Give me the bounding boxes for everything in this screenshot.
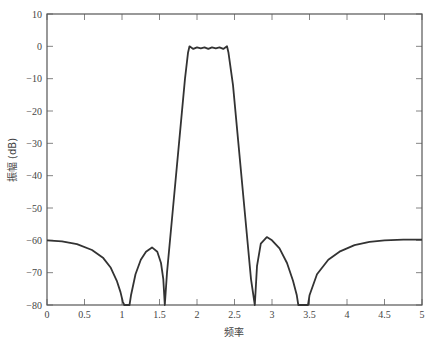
x-tick-label: 0.5 (78, 309, 91, 320)
y-tick-label: −60 (26, 235, 42, 246)
x-tick-label: 2 (195, 309, 200, 320)
x-tick-label: 2.5 (228, 309, 241, 320)
x-tick-label: 0 (45, 309, 50, 320)
tick-labels: 00.511.522.533.544.55100−10−20−30−40−50−… (26, 9, 424, 321)
y-tick-label: −20 (26, 106, 42, 117)
x-tick-label: 1 (120, 309, 125, 320)
magnitude-curve (47, 46, 422, 305)
y-tick-label: −30 (26, 138, 42, 149)
x-tick-label: 3.5 (303, 309, 316, 320)
y-tick-label: −70 (26, 267, 42, 278)
x-tick-label: 3 (270, 309, 275, 320)
x-tick-label: 1.5 (153, 309, 166, 320)
y-tick-label: −80 (26, 300, 42, 311)
y-axis-label: 振幅 (dB) (6, 138, 18, 182)
y-tick-label: −40 (26, 170, 42, 181)
y-tick-label: −10 (26, 73, 42, 84)
frequency-response-chart: 00.511.522.533.544.55100−10−20−30−40−50−… (0, 0, 431, 345)
x-tick-label: 5 (420, 309, 425, 320)
y-tick-label: −50 (26, 203, 42, 214)
plot-frame (47, 14, 422, 305)
x-axis-label: 频率 (224, 326, 244, 338)
x-tick-label: 4.5 (378, 309, 391, 320)
y-tick-label: 0 (37, 41, 42, 52)
y-tick-label: 10 (32, 9, 42, 20)
x-tick-label: 4 (345, 309, 350, 320)
axis-ticks (47, 14, 422, 305)
